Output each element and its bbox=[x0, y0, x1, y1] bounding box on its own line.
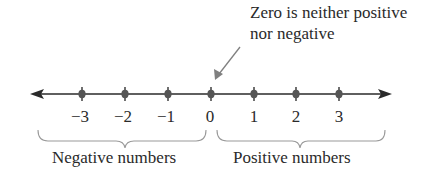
tick-point bbox=[78, 87, 85, 101]
annotation-arrow bbox=[214, 47, 240, 80]
tick-label: 1 bbox=[250, 107, 259, 127]
tick-label: 0 bbox=[206, 107, 215, 127]
negative-numbers-label: Negative numbers bbox=[52, 148, 176, 168]
positive-numbers-label: Positive numbers bbox=[233, 148, 351, 168]
positive-brace bbox=[217, 130, 385, 148]
tick-label: −1 bbox=[157, 107, 175, 127]
annotation-line-2: nor negative bbox=[250, 24, 335, 44]
tick-label: 3 bbox=[335, 107, 344, 127]
tick-label: 2 bbox=[292, 107, 301, 127]
tick-point bbox=[292, 87, 299, 101]
tick-point bbox=[207, 87, 214, 101]
negative-brace bbox=[38, 130, 206, 148]
tick-label: −2 bbox=[114, 107, 132, 127]
tick-point bbox=[121, 87, 128, 101]
tick-point bbox=[250, 87, 257, 101]
tick-point bbox=[164, 87, 171, 101]
annotation-line-1: Zero is neither positive bbox=[250, 3, 407, 23]
tick-point bbox=[335, 87, 342, 101]
tick-label: −3 bbox=[71, 107, 89, 127]
